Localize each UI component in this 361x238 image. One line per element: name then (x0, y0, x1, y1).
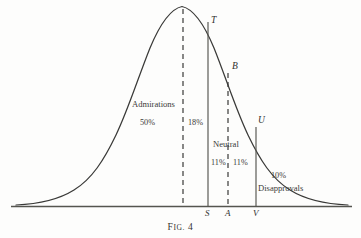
percent-label-18: 18% (188, 119, 203, 127)
figure-container: T B U Admirations Neutral Disapprovals 5… (0, 0, 361, 238)
region-label-disapprovals: Disapprovals (258, 184, 303, 193)
axis-tick-label-V: V (253, 209, 259, 218)
percent-label-50: 50% (140, 119, 155, 127)
bell-curve-drawing (0, 0, 361, 238)
percent-label-10: 10% (271, 172, 286, 180)
bell-curve-path (16, 7, 348, 206)
figure-caption-ig: IG. (173, 223, 185, 232)
figure-caption: FIG. 4 (0, 222, 361, 232)
region-label-admirations: Admirations (132, 100, 175, 109)
percent-label-11-left: 11% (211, 159, 226, 167)
curve-point-label-U: U (258, 116, 265, 126)
region-label-neutral: Neutral (213, 140, 239, 149)
axis-tick-label-A: A (225, 209, 231, 218)
axis-tick-label-S: S (205, 209, 210, 218)
curve-point-label-T: T (211, 16, 216, 26)
percent-label-11-right: 11% (233, 159, 248, 167)
figure-caption-number: 4 (188, 222, 193, 232)
curve-point-label-B: B (232, 62, 238, 72)
